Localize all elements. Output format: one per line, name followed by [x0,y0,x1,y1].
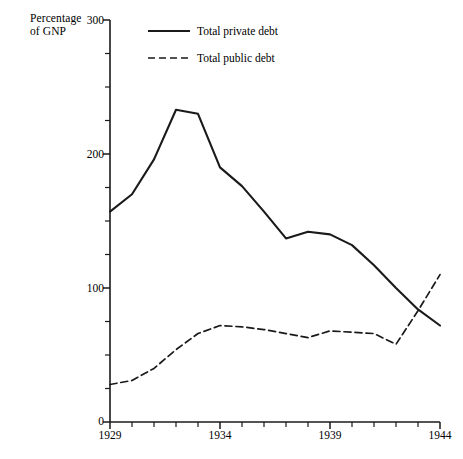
legend-swatches [148,31,190,58]
series-line-total-private-debt [110,110,440,326]
axes [110,20,440,422]
debt-percentage-of-gnp-chart: Percentage of GNP 300 200 100 0 1929 193… [0,0,463,459]
series-line-total-public-debt [110,275,440,385]
x-axis-ticks [110,422,440,429]
y-axis-ticks [103,20,110,422]
plot-canvas [0,0,463,459]
